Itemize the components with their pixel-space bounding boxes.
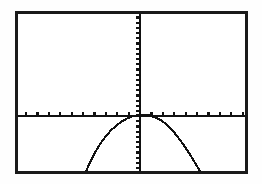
calculator-screenshot [0,0,262,184]
parabola-curve [82,115,206,171]
calculator-screen-frame [15,11,248,174]
graph-plot-area [18,14,245,171]
parabola-graph-svg [18,14,245,171]
